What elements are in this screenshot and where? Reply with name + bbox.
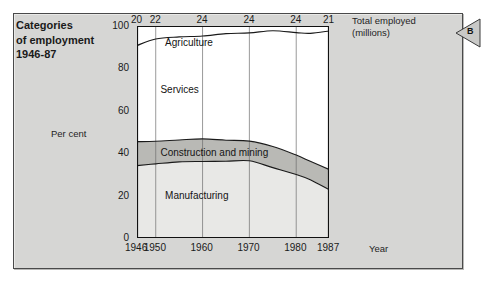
section-marker-b: B	[455, 18, 481, 48]
chart-plot-area	[137, 26, 329, 238]
x-tick-1960: 1960	[191, 242, 213, 253]
band-label-construction-and-mining: Construction and mining	[160, 147, 268, 158]
y-tick-60: 60	[103, 105, 129, 116]
y-tick-100: 100	[103, 20, 129, 31]
band-label-services: Services	[160, 84, 198, 95]
x-tick-1980: 1980	[284, 242, 306, 253]
x-tick-1970: 1970	[237, 242, 259, 253]
stacked-area-chart	[137, 26, 329, 238]
total-employed-tick-1946: 20	[131, 14, 142, 25]
band-label-manufacturing: Manufacturing	[165, 190, 228, 201]
band-label-agriculture: Agriculture	[165, 37, 213, 48]
title-line-2: of employment	[16, 33, 136, 48]
section-marker-letter: B	[467, 26, 474, 36]
total-employed-tick-1987: 21	[323, 14, 334, 25]
x-tick-1950: 1950	[144, 242, 166, 253]
secondary-axis-label-line-1: Total employed	[352, 15, 416, 27]
title-line-3: 1946-87	[16, 47, 136, 62]
x-axis-label: Year	[369, 243, 388, 254]
y-axis-label: Per cent	[51, 128, 86, 139]
total-employed-tick-1950: 22	[150, 14, 161, 25]
secondary-axis-label-line-2: (millions)	[352, 27, 416, 39]
total-employed-tick-1980: 24	[290, 14, 301, 25]
y-tick-40: 40	[103, 147, 129, 158]
secondary-axis-label: Total employed (millions)	[352, 15, 416, 39]
x-tick-1987: 1987	[317, 242, 339, 253]
figure-root: Categories of employment 1946-87 Per cen…	[0, 0, 485, 282]
y-tick-80: 80	[103, 62, 129, 73]
total-employed-tick-1970: 24	[243, 14, 254, 25]
total-employed-tick-1960: 24	[197, 14, 208, 25]
y-tick-20: 20	[103, 190, 129, 201]
